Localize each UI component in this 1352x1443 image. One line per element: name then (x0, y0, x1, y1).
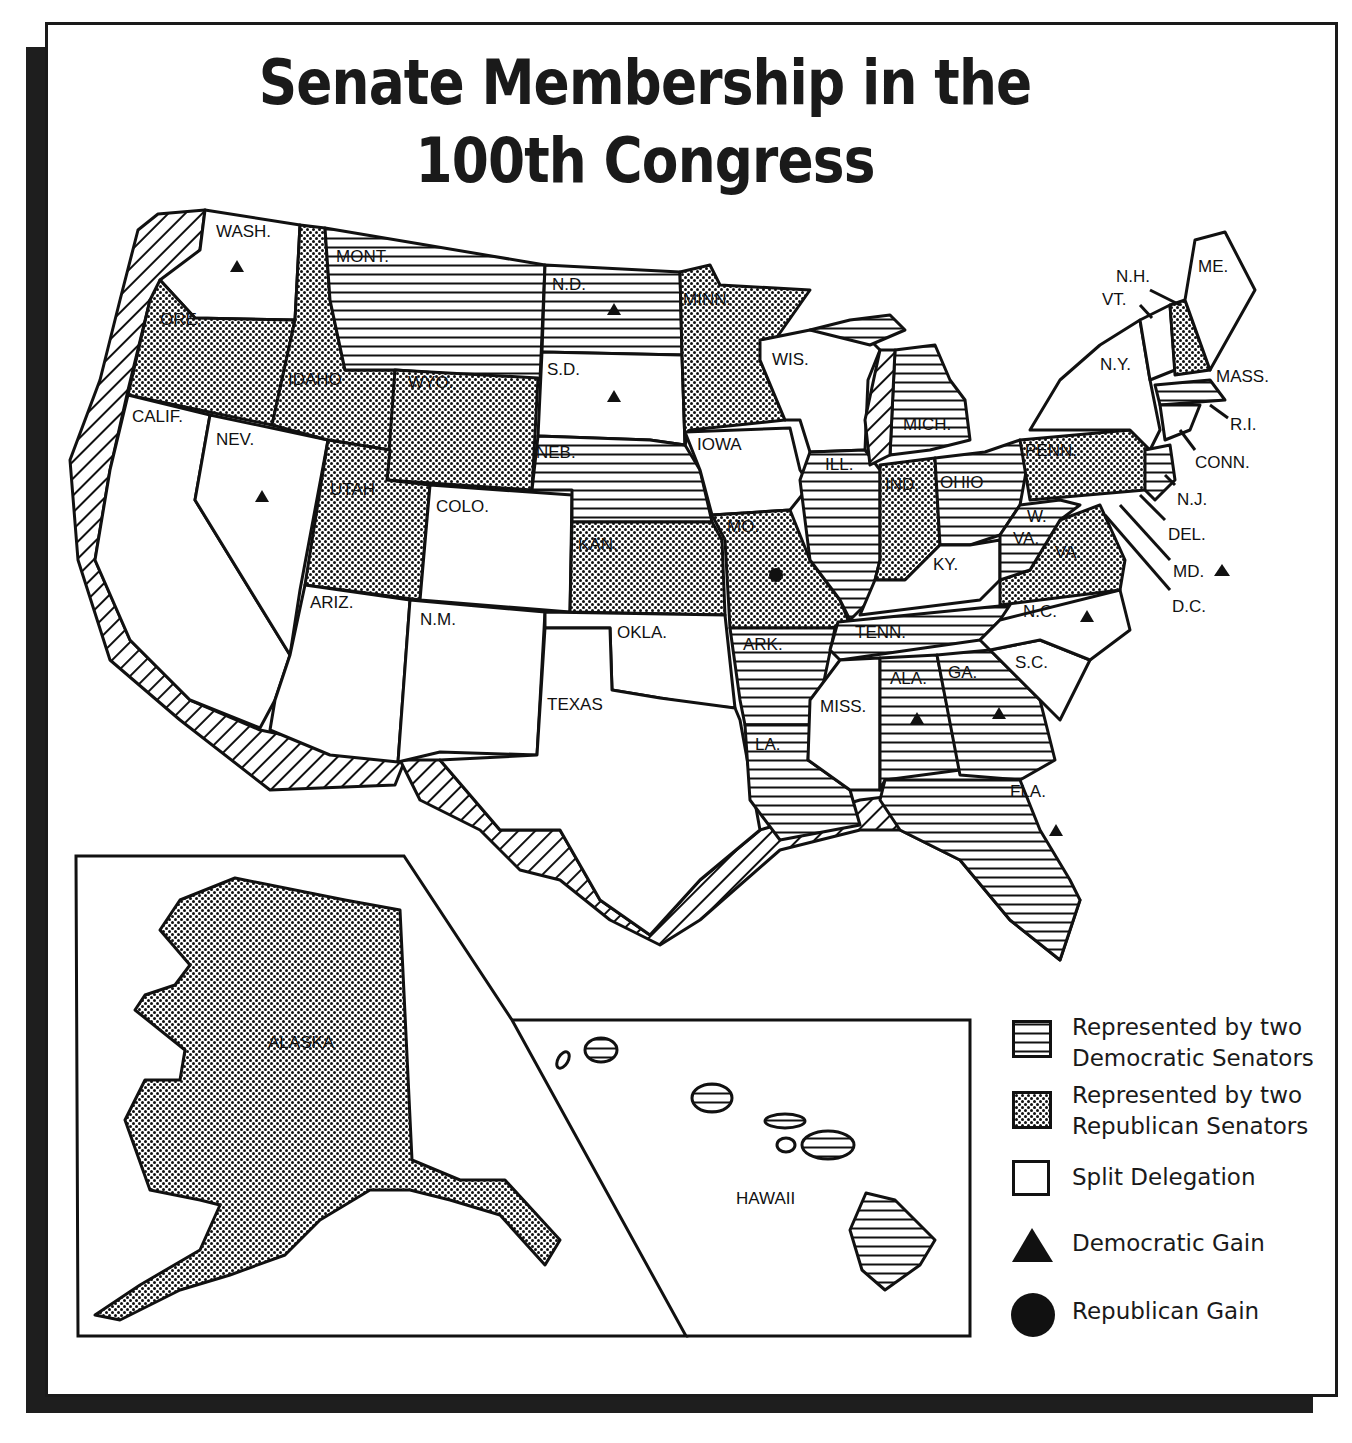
state-nj (1145, 445, 1175, 500)
label-ark: ARK. (743, 635, 783, 654)
label-mich: MICH. (903, 415, 951, 434)
label-hawaii: HAWAII (736, 1189, 795, 1208)
label-ill: ILL. (825, 455, 853, 474)
label-md: MD. (1173, 562, 1204, 581)
label-ri: R.I. (1230, 415, 1256, 434)
hawaii-inset-frame (512, 1020, 970, 1336)
label-colo: COLO. (436, 497, 489, 516)
label-penn: PENN. (1025, 441, 1077, 460)
label-kan: KAN. (578, 535, 618, 554)
legend-dem-gain-label: Democratic Gain (1072, 1228, 1265, 1259)
legend-rep-gain-label: Republican Gain (1072, 1296, 1259, 1327)
label-idaho: IDAHO (288, 370, 342, 389)
label-ore: ORE. (160, 310, 202, 329)
label-sd: S.D. (547, 360, 580, 379)
state-alaska (95, 878, 560, 1320)
dem-gain-icon-md (1214, 564, 1230, 576)
label-nc: N.C. (1023, 602, 1057, 621)
legend-rep-line2: Republican Senators (1072, 1111, 1308, 1142)
legend-item-rep-gain: Republican Gain (1012, 1286, 1322, 1346)
label-tenn: TENN. (855, 623, 906, 642)
rep-gain-icon-mo (769, 568, 783, 582)
label-me: ME. (1198, 257, 1228, 276)
legend-dem-line2: Democratic Senators (1072, 1043, 1314, 1074)
label-nm: N.M. (420, 610, 456, 629)
label-nj: N.J. (1177, 490, 1207, 509)
legend: Represented by two Democratic Senators R… (1012, 1012, 1322, 1346)
label-fla: FLA. (1010, 782, 1046, 801)
state-mich (890, 345, 970, 455)
label-va: VA. (1055, 543, 1081, 562)
label-sc: S.C. (1015, 653, 1048, 672)
label-wyo: WYO. (408, 373, 453, 392)
hawaii-islands (554, 1038, 935, 1290)
circle-icon (1010, 1292, 1056, 1338)
label-utah: UTAH (330, 480, 375, 499)
label-mass: MASS. (1216, 367, 1269, 386)
label-mont: MONT. (336, 247, 389, 266)
horizontal-lines-swatch-icon (1012, 1020, 1052, 1058)
label-texas: TEXAS (547, 695, 603, 714)
label-minn: MINN. (683, 290, 731, 309)
label-ny: N.Y. (1100, 355, 1131, 374)
label-wva-2: VA. (1013, 529, 1039, 548)
label-ala: ALA. (890, 669, 927, 688)
blank-swatch-icon (1012, 1160, 1050, 1196)
label-vt: VT. (1102, 290, 1127, 309)
legend-item-rep: Represented by two Republican Senators (1012, 1084, 1322, 1156)
label-wis: WIS. (772, 350, 809, 369)
label-la: LA. (755, 735, 781, 754)
state-ny (1030, 320, 1160, 450)
label-mo: MO. (727, 517, 759, 536)
label-ind: IND. (885, 475, 919, 494)
label-calif: CALIF. (132, 407, 183, 426)
triangle-icon (1012, 1228, 1054, 1264)
label-dc: D.C. (1172, 597, 1206, 616)
legend-rep-line1: Represented by two (1072, 1080, 1302, 1111)
label-wash: WASH. (216, 222, 271, 241)
label-alaska: ALASKA (268, 1033, 335, 1052)
label-iowa: IOWA (697, 435, 742, 454)
dotted-swatch-icon (1012, 1091, 1052, 1129)
label-wva-1: W. (1027, 507, 1047, 526)
dem-gain-icon-fla (1049, 824, 1063, 836)
legend-item-dem: Represented by two Democratic Senators (1012, 1012, 1322, 1084)
label-nh: N.H. (1116, 267, 1150, 286)
state-conn (1160, 405, 1200, 440)
label-ohio: OHIO (940, 473, 983, 492)
label-nev: NEV. (216, 430, 254, 449)
label-nd: N.D. (552, 275, 586, 294)
legend-split-label: Split Delegation (1072, 1162, 1255, 1193)
label-del: DEL. (1168, 525, 1206, 544)
legend-item-dem-gain: Democratic Gain (1012, 1220, 1322, 1286)
label-conn: CONN. (1195, 453, 1250, 472)
label-ariz: ARIZ. (310, 593, 353, 612)
label-ga: GA. (948, 663, 977, 682)
label-miss: MISS. (820, 697, 866, 716)
legend-dem-line1: Represented by two (1072, 1012, 1302, 1043)
label-ky: KY. (933, 555, 958, 574)
state-fla (880, 780, 1080, 960)
legend-item-split: Split Delegation (1012, 1156, 1322, 1220)
label-okla: OKLA. (617, 623, 667, 642)
state-mass (1155, 380, 1225, 405)
label-neb: NEB. (536, 443, 576, 462)
